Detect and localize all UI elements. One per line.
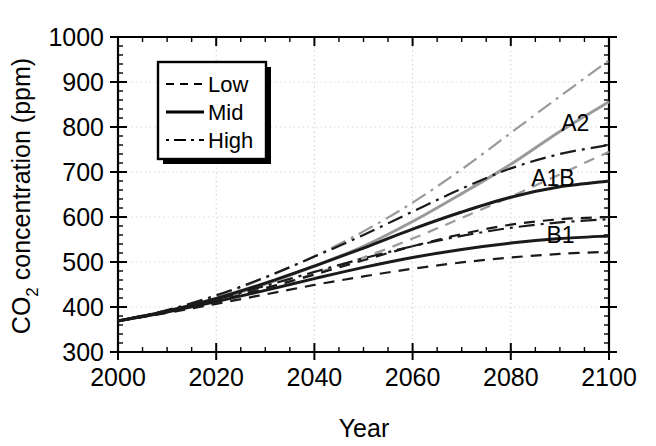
y-tick-label: 800 [62, 113, 104, 141]
legend-label-high: High [208, 128, 253, 153]
y-tick-label: 300 [62, 338, 104, 366]
y-tick-label: 500 [62, 248, 104, 276]
x-tick-label: 2100 [581, 363, 637, 391]
x-tick-label: 2020 [188, 363, 244, 391]
annotation-b1: B1 [546, 222, 574, 248]
co2-concentration-line-chart: 200020202040206020802100 300400500600700… [0, 0, 656, 446]
x-tick-label: 2060 [385, 363, 441, 391]
legend-label-low: Low [208, 72, 248, 97]
chart-legend: LowMidHigh [158, 62, 271, 164]
annotation-a2: A2 [561, 110, 589, 136]
y-axis-title-main: CO [7, 297, 35, 335]
annotation-a1b: A1B [531, 165, 574, 191]
y-tick-label: 400 [62, 293, 104, 321]
chart-figure: 200020202040206020802100 300400500600700… [0, 0, 656, 446]
y-tick-label: 700 [62, 158, 104, 186]
y-axis-title-rest: concentration (ppm) [7, 58, 35, 287]
y-axis-title-subscript: 2 [23, 287, 42, 296]
x-tick-label: 2080 [483, 363, 539, 391]
x-tick-label: 2040 [287, 363, 343, 391]
y-tick-label: 600 [62, 203, 104, 231]
x-tick-label: 2000 [90, 363, 146, 391]
y-tick-label: 1000 [48, 23, 104, 51]
y-tick-label: 900 [62, 68, 104, 96]
legend-label-mid: Mid [208, 100, 243, 125]
x-axis-title: Year [339, 414, 390, 442]
